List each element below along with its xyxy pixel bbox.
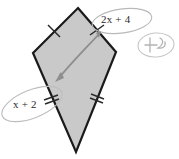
edge-label-top-right-text: 2x + 4 bbox=[101, 13, 130, 25]
geometry-figure-canvas: 2x + 4 x + 2 bbox=[0, 0, 179, 159]
handwritten-scribble-icon bbox=[145, 38, 165, 52]
edge-label-bottom-left-text: x + 2 bbox=[13, 98, 37, 110]
kite-polygon bbox=[33, 8, 116, 152]
edge-label-bottom-left: x + 2 bbox=[13, 98, 37, 110]
kite-diagram-svg bbox=[0, 0, 179, 159]
edge-label-top-right: 2x + 4 bbox=[101, 13, 130, 25]
